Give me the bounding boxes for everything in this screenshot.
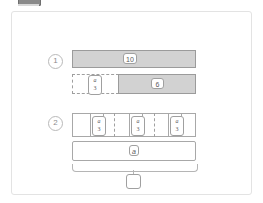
fraction-numerator: a	[132, 118, 144, 125]
step-marker-1: 1	[48, 54, 63, 69]
fraction-numerator: a	[93, 118, 105, 125]
segment-divider-solid	[129, 113, 130, 137]
known-part-label: 6	[151, 78, 164, 89]
fraction-numerator: a	[171, 118, 183, 125]
segment-divider-solid	[90, 113, 91, 137]
diagram-panel: 1 10 a 3 6 2 a 3	[11, 11, 252, 195]
total-brace-icon	[72, 164, 198, 172]
group-divider-dashed	[154, 113, 155, 137]
step-marker-2: 2	[48, 116, 63, 131]
thirds-group-1-label: a 3	[92, 116, 106, 136]
fraction-denominator: 3	[93, 126, 105, 133]
figure-root: 1 10 a 3 6 2 a 3	[0, 0, 263, 203]
thirds-group-2-label: a 3	[131, 116, 145, 136]
fraction-denominator: 3	[132, 126, 144, 133]
group-divider-dashed	[114, 113, 115, 137]
fraction-denominator: 3	[89, 85, 101, 92]
fraction-denominator: 3	[171, 126, 183, 133]
fraction-numerator: a	[89, 77, 101, 84]
unknown-part-fraction-label: a 3	[88, 75, 102, 95]
answer-box[interactable]	[126, 174, 141, 189]
whole-bar-label: a	[129, 145, 139, 156]
segment-divider-solid	[168, 113, 169, 137]
total-bar-label: 10	[123, 53, 137, 64]
top-tab-shadow	[18, 4, 39, 6]
thirds-group-3-label: a 3	[170, 116, 184, 136]
